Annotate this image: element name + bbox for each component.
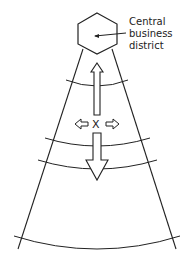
cbd-label-line-3: district — [129, 40, 164, 51]
label-pointer — [95, 33, 126, 36]
cbd-label-line-1: Central — [129, 16, 165, 27]
arrow-right-icon — [106, 119, 119, 129]
arrow-left-icon — [75, 119, 88, 129]
distance-variable-x: X — [92, 118, 100, 131]
cbd-label-line-2: business — [129, 28, 173, 39]
arrow-up-icon — [91, 63, 103, 115]
sector-right-edge — [112, 49, 176, 249]
sector-left-edge — [18, 49, 83, 249]
arrow-down-icon — [86, 133, 108, 180]
pointer-arrowhead-icon — [94, 34, 99, 38]
zone-arc-4 — [14, 236, 180, 249]
cbd-hexagon — [78, 13, 117, 54]
cbd-sector-diagram: Central business district X — [0, 0, 193, 261]
